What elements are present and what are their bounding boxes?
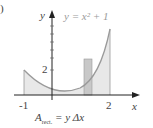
x-axis-label: x (132, 100, 137, 112)
representative-rectangle (84, 59, 92, 95)
caption-rest: = y Δx (52, 111, 84, 123)
caption-subscript: rect. (42, 119, 53, 125)
equation-label: y = x² + 1 (64, 10, 108, 22)
y-tick-label-2: 2 (42, 63, 48, 75)
y-axis-arrow-icon (49, 10, 55, 18)
y-axis-label: y (40, 9, 45, 21)
area-caption: Arect. = y Δx (35, 111, 84, 125)
x-tick-label-neg1: -1 (19, 99, 28, 111)
x-tick-label-2: 2 (106, 99, 112, 111)
x-axis-arrow-icon (132, 92, 140, 98)
caption-A: A (35, 111, 42, 123)
shaded-area (24, 29, 110, 95)
